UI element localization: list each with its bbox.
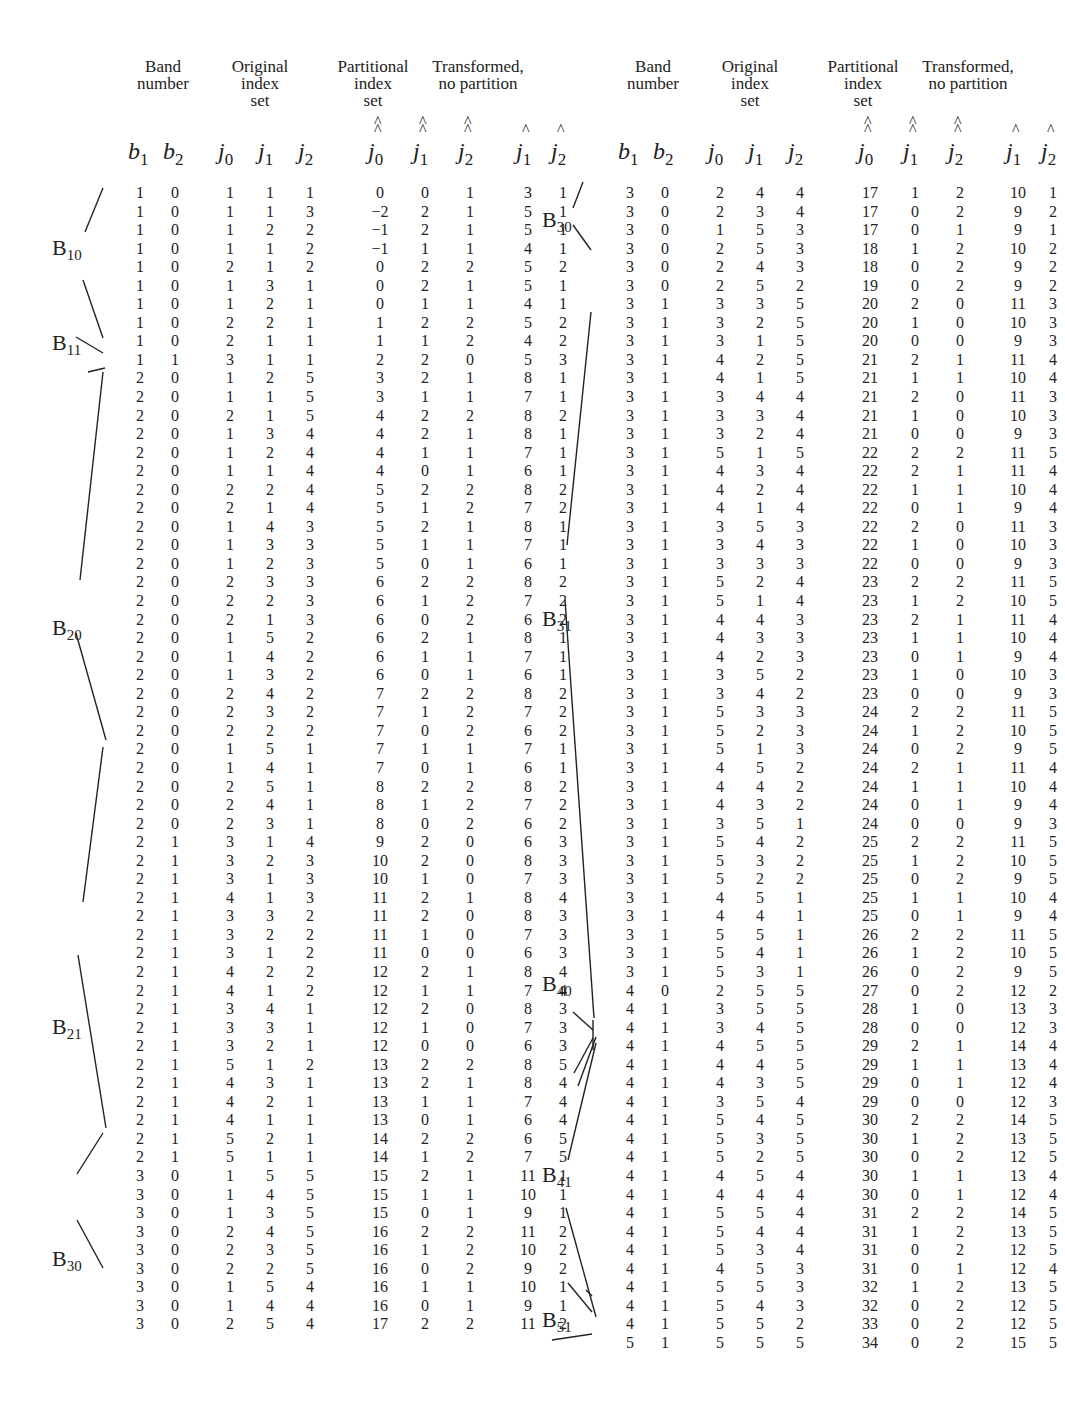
- cell: 8: [513, 852, 543, 871]
- header-original: Originalindexset: [700, 58, 800, 109]
- cell: 1: [125, 240, 155, 259]
- cell: 9: [1003, 332, 1033, 351]
- cell: 3: [1038, 388, 1065, 407]
- cell: 6: [365, 629, 395, 648]
- cell: 2: [705, 184, 735, 203]
- cell: 2: [785, 778, 815, 797]
- cell: 0: [160, 796, 190, 815]
- cell: 2: [945, 1204, 975, 1223]
- cell: 2: [410, 573, 440, 592]
- cell: 5: [705, 740, 735, 759]
- cell: 2: [945, 870, 975, 889]
- cell: 2: [945, 1278, 975, 1297]
- cell: 2: [125, 1019, 155, 1038]
- cell: 5: [295, 1186, 325, 1205]
- cell: 1: [650, 369, 680, 388]
- cell: 4: [745, 1186, 775, 1205]
- cell: 1: [125, 258, 155, 277]
- cell: 2: [125, 555, 155, 574]
- cell: 2: [945, 1241, 975, 1260]
- cell: 1: [650, 907, 680, 926]
- cell: 0: [455, 907, 485, 926]
- cell: 3: [1038, 407, 1065, 426]
- cell: 13: [1003, 1000, 1033, 1019]
- cell: 2: [215, 1315, 245, 1334]
- cell: 10: [365, 870, 395, 889]
- cell: 7: [513, 1093, 543, 1112]
- cell: 2: [125, 499, 155, 518]
- cell: 29: [855, 1074, 885, 1093]
- cell: 9: [1003, 648, 1033, 667]
- cell: 5: [745, 982, 775, 1001]
- cell: 2: [125, 369, 155, 388]
- table-row: 415523302125: [540, 1315, 1030, 1334]
- cell: 3: [615, 369, 645, 388]
- cell: 3: [615, 351, 645, 370]
- cell: 1: [945, 499, 975, 518]
- cell: 2: [295, 944, 325, 963]
- cell: 5: [1038, 852, 1065, 871]
- cell: 2: [455, 258, 485, 277]
- cell: 2: [745, 314, 775, 333]
- cell: 2: [215, 1241, 245, 1260]
- cell: 2: [900, 518, 930, 537]
- cell: 1: [125, 351, 155, 370]
- cell: 29: [855, 1056, 885, 1075]
- cell: 5: [745, 240, 775, 259]
- cell: 1: [455, 1111, 485, 1130]
- table-row: 313252010103: [540, 314, 1030, 333]
- cell: 1: [650, 388, 680, 407]
- cell: 13: [365, 1111, 395, 1130]
- cell: 7: [365, 740, 395, 759]
- cell: 5: [785, 314, 815, 333]
- cell: 3: [1038, 295, 1065, 314]
- cell: 0: [900, 425, 930, 444]
- cell: 2: [410, 369, 440, 388]
- cell: 3: [745, 852, 775, 871]
- table-row: 2012532181: [50, 369, 540, 388]
- cell: 1: [785, 963, 815, 982]
- table-row: 2015262181: [50, 629, 540, 648]
- cell: 1: [295, 778, 325, 797]
- cell: 14: [1003, 1204, 1033, 1223]
- cell: 4: [1038, 648, 1065, 667]
- cell: 5: [745, 1204, 775, 1223]
- cell: 23: [855, 648, 885, 667]
- cell: 4: [1038, 1260, 1065, 1279]
- cell: 0: [650, 240, 680, 259]
- cell: 4: [255, 759, 285, 778]
- cell: 4: [1038, 462, 1065, 481]
- cell: 3: [365, 388, 395, 407]
- cell: 1: [255, 1056, 285, 1075]
- cell: 4: [1038, 369, 1065, 388]
- cell: 4: [705, 1167, 735, 1186]
- cell: 0: [900, 963, 930, 982]
- cell: 11: [1003, 833, 1033, 852]
- cell: 1: [125, 277, 155, 296]
- cell: 1: [650, 332, 680, 351]
- cell: 2: [410, 425, 440, 444]
- cell: 0: [410, 759, 440, 778]
- cell: 1: [650, 462, 680, 481]
- cell: 1: [945, 796, 975, 815]
- cell: 3: [745, 203, 775, 222]
- cell: 1: [945, 648, 975, 667]
- cell: 2: [945, 277, 975, 296]
- cell: 3: [125, 1278, 155, 1297]
- cell: 5: [745, 1260, 775, 1279]
- cell: 9: [513, 1204, 543, 1223]
- cell: 0: [160, 425, 190, 444]
- cell: 4: [1038, 778, 1065, 797]
- cell: 1: [900, 536, 930, 555]
- cell: 5: [365, 499, 395, 518]
- cell: 31: [855, 1204, 885, 1223]
- cell: 0: [160, 221, 190, 240]
- cell: 1: [215, 444, 245, 463]
- table-row: 402552702122: [540, 982, 1030, 1001]
- table-row: 1021202252: [50, 258, 540, 277]
- cell: 1: [295, 759, 325, 778]
- cell: 6: [365, 573, 395, 592]
- table-row: 314252121114: [540, 351, 1030, 370]
- column-header-j0: j0: [368, 138, 383, 170]
- cell: 3: [615, 258, 645, 277]
